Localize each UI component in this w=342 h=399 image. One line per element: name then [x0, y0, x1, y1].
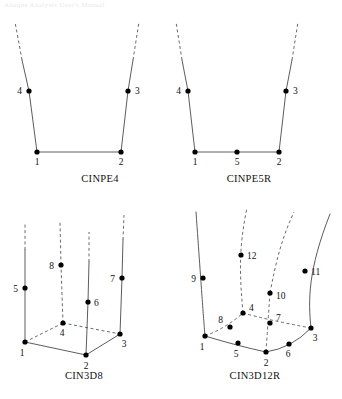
- edge-dashed: [123, 215, 124, 240]
- figure-caption-cinpe4: CINPE4: [81, 173, 119, 184]
- node-label-6: 6: [94, 298, 99, 308]
- edge-dashed: [176, 22, 182, 60]
- figure-cin3d12r: 123456789101112CIN3D12R: [191, 208, 330, 381]
- node-marker-2: [83, 352, 88, 357]
- node-label-4: 4: [17, 86, 22, 96]
- figure-caption-cinpe5r: CINPE5R: [227, 173, 272, 184]
- edge-solid: [22, 60, 29, 91]
- node-label-3: 3: [313, 333, 318, 343]
- node-marker-11: [302, 268, 307, 273]
- node-marker-9: [200, 275, 205, 280]
- figure-cinpe4: 1234CINPE4: [15, 22, 140, 184]
- node-label-4: 4: [60, 328, 65, 338]
- node-marker-5: [234, 149, 239, 154]
- node-marker-3: [308, 325, 313, 330]
- edge-dashed: [60, 222, 61, 265]
- node-label-8: 8: [49, 261, 54, 271]
- node-marker-4: [60, 320, 65, 325]
- node-marker-5: [22, 285, 27, 290]
- edge-dashed: [205, 313, 243, 336]
- node-marker-7: [119, 275, 124, 280]
- edge-solid: [196, 212, 205, 336]
- node-label-6: 6: [286, 349, 291, 359]
- node-marker-4: [240, 310, 245, 315]
- figure-cinpe5r: 12345CINPE5R: [176, 22, 298, 184]
- node-label-4: 4: [176, 86, 181, 96]
- node-label-3: 3: [293, 86, 298, 96]
- figure-cin3d8: 12345678CIN3D8: [13, 215, 126, 381]
- node-marker-4: [185, 88, 190, 93]
- node-label-11: 11: [311, 267, 320, 277]
- edge-solid: [120, 278, 122, 334]
- node-label-1: 1: [20, 348, 25, 358]
- node-label-8: 8: [218, 315, 223, 325]
- node-marker-2: [276, 149, 281, 154]
- element-library-diagram: 1234CINPE412345CINPE5R12345678CIN3D81234…: [0, 0, 342, 399]
- node-marker-6: [286, 341, 291, 346]
- node-marker-2: [118, 149, 123, 154]
- node-label-2: 2: [264, 358, 269, 368]
- edge-dashed: [133, 22, 139, 60]
- node-marker-1: [22, 339, 27, 344]
- edge-solid: [25, 342, 86, 355]
- node-label-5: 5: [234, 349, 239, 359]
- node-label-2: 2: [277, 157, 282, 167]
- edge-solid: [88, 262, 89, 302]
- edge-solid: [86, 302, 88, 355]
- edge-solid: [279, 91, 286, 152]
- edge-solid: [29, 91, 37, 152]
- edge-solid: [121, 91, 128, 152]
- node-marker-4: [26, 88, 31, 93]
- node-label-5: 5: [235, 157, 240, 167]
- edge-dashed: [61, 265, 63, 323]
- node-marker-3: [283, 88, 288, 93]
- node-label-12: 12: [247, 251, 257, 261]
- edge-solid: [128, 60, 133, 91]
- edge-dashed: [25, 323, 63, 342]
- node-label-3: 3: [122, 339, 127, 349]
- node-label-4: 4: [249, 303, 254, 313]
- node-label-7: 7: [110, 274, 115, 284]
- node-marker-1: [34, 149, 39, 154]
- node-marker-6: [85, 299, 90, 304]
- node-marker-3: [117, 331, 122, 336]
- node-marker-1: [202, 333, 207, 338]
- node-label-2: 2: [119, 157, 124, 167]
- node-marker-8: [58, 262, 63, 267]
- edge-dashed: [63, 323, 120, 334]
- edge-solid: [286, 60, 292, 91]
- edge-dashed: [292, 22, 298, 60]
- node-marker-12: [238, 252, 243, 257]
- node-marker-8: [227, 324, 232, 329]
- figure-sheet: Abaqus Analysis User's Manual 1234CINPE4…: [0, 0, 342, 399]
- edge-dashed: [15, 22, 22, 60]
- node-marker-1: [192, 149, 197, 154]
- edge-solid: [188, 91, 195, 152]
- node-marker-10: [267, 290, 272, 295]
- node-marker-2: [263, 349, 268, 354]
- node-label-5: 5: [13, 284, 18, 294]
- node-marker-7: [267, 320, 272, 325]
- node-label-1: 1: [35, 157, 40, 167]
- node-label-1: 1: [193, 157, 198, 167]
- node-label-3: 3: [135, 86, 140, 96]
- edge-solid: [86, 334, 120, 355]
- node-label-10: 10: [276, 291, 286, 301]
- node-marker-5: [235, 340, 240, 345]
- figure-caption-cin3d8: CIN3D8: [65, 370, 103, 381]
- edge-dashed: [270, 212, 294, 293]
- edge-solid: [122, 240, 123, 278]
- node-label-7: 7: [276, 313, 281, 323]
- node-label-9: 9: [191, 274, 196, 284]
- node-marker-3: [125, 88, 130, 93]
- node-label-1: 1: [200, 342, 205, 352]
- edge-solid: [182, 60, 188, 91]
- figure-caption-cin3d12r: CIN3D12R: [230, 370, 281, 381]
